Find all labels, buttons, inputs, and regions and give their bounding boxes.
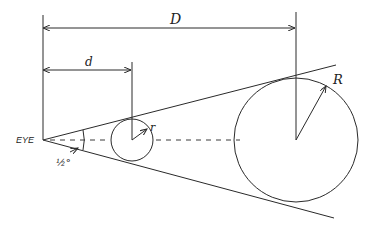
diagram-canvas: D d r R ½° EYE bbox=[0, 0, 372, 231]
eye-label: EYE bbox=[16, 135, 35, 145]
far-radius-arrow bbox=[296, 86, 326, 140]
angle-label: ½° bbox=[56, 157, 71, 168]
near-radius-label: r bbox=[150, 121, 156, 134]
far-radius-label: R bbox=[332, 72, 343, 87]
far-distance-label: D bbox=[169, 11, 181, 27]
lower-tangent-line bbox=[43, 140, 334, 218]
near-radius-arrow bbox=[132, 129, 147, 140]
upper-tangent-line bbox=[43, 65, 336, 140]
near-distance-label: d bbox=[85, 55, 93, 69]
